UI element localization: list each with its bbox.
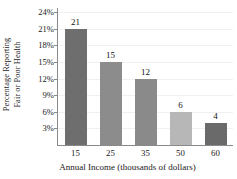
x-axis-tick-label: 35 <box>141 148 150 158</box>
bar <box>65 29 87 145</box>
y-axis-title-line-1: Percentage Reporting <box>3 37 14 111</box>
plot-area: 21151264 <box>58 12 233 146</box>
x-axis-tick-label: 15 <box>71 148 80 158</box>
bar-value-label: 12 <box>141 67 150 77</box>
bar-value-label: 15 <box>106 50 115 60</box>
y-axis-tick-label: 9% <box>43 91 54 100</box>
y-axis-tick-label: 15% <box>38 57 54 66</box>
x-axis-tick-label: 60 <box>211 148 220 158</box>
y-axis-tick-label: 6% <box>43 107 54 116</box>
x-axis-title: Annual Income (thousands of dollars) <box>20 162 235 173</box>
bar-value-label: 21 <box>71 17 80 27</box>
bar-value-label: 4 <box>213 111 218 121</box>
bar <box>170 112 192 145</box>
plot-inner: 21151264 <box>58 12 233 146</box>
x-axis-tick-label: 25 <box>106 148 115 158</box>
bar <box>205 123 227 145</box>
y-axis-tick-label: 12% <box>38 74 54 83</box>
bar <box>135 79 157 146</box>
y-axis-title-line-2: Fair or Poor Health <box>13 37 24 111</box>
x-axis-line <box>57 145 233 146</box>
y-axis-tick-label: 21% <box>38 24 54 33</box>
y-axis-tick-label: 3% <box>43 124 54 133</box>
y-axis-tick-label: 24% <box>38 8 54 17</box>
bar <box>100 62 122 145</box>
bar-value-label: 6 <box>178 100 183 110</box>
bar-chart-figure: Percentage Reporting Fair or Poor Health… <box>0 0 237 179</box>
y-axis-title: Percentage Reporting Fair or Poor Health <box>0 0 26 148</box>
gridline <box>58 12 233 13</box>
x-axis-tick-label: 50 <box>176 148 185 158</box>
x-axis-tick-labels: 1525355060 <box>58 148 233 160</box>
y-axis-line <box>57 8 58 146</box>
y-axis-tick-label: 18% <box>38 41 54 50</box>
y-axis-tick-labels: 24%21%18%15%12%9%6%3% <box>24 8 56 146</box>
